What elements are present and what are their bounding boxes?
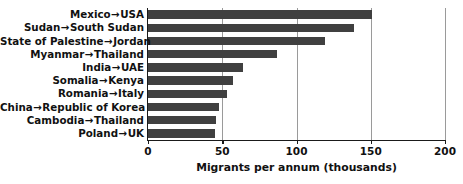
arrow-icon: → — [111, 61, 121, 73]
arrow-icon: → — [84, 114, 94, 126]
origin-label: Poland — [78, 127, 118, 139]
category-label: India→UAE — [0, 62, 144, 73]
bar-fill — [148, 76, 233, 84]
destination-label: UK — [128, 127, 144, 139]
bar-fill — [148, 50, 277, 58]
bar — [148, 10, 372, 18]
bar-fill — [148, 129, 215, 137]
arrow-icon: → — [104, 35, 114, 47]
bar — [148, 90, 227, 98]
arrow-icon: → — [118, 127, 128, 139]
x-tick-mark-150 — [371, 140, 372, 144]
gridline-150 — [371, 8, 372, 140]
destination-label: UAE — [121, 61, 144, 73]
arrow-icon: → — [84, 48, 94, 60]
bar — [148, 129, 215, 137]
category-label: Sudan→South Sudan — [0, 22, 144, 33]
destination-label: Jordan — [113, 35, 151, 47]
destination-label: Thailand — [94, 48, 144, 60]
x-tick-label-0: 0 — [144, 145, 151, 157]
category-label: Somalia→Kenya — [0, 75, 144, 86]
bar — [148, 103, 219, 111]
x-tick-mark-0 — [148, 140, 149, 144]
arrow-icon: → — [99, 74, 109, 86]
bar-fill — [148, 90, 227, 98]
bar — [148, 24, 354, 32]
category-label: State of Palestine→Jordan — [0, 36, 144, 47]
origin-label: India — [82, 61, 111, 73]
bar — [148, 37, 325, 45]
arrow-icon: → — [60, 21, 70, 33]
x-tick-mark-200 — [445, 140, 446, 144]
bar-fill — [148, 24, 354, 32]
destination-label: Thailand — [94, 114, 144, 126]
origin-label: Sudan — [24, 21, 60, 33]
category-label: Mexico→USA — [0, 9, 144, 20]
gridline-200 — [445, 8, 446, 140]
bar — [148, 50, 277, 58]
bar-fill — [148, 63, 243, 71]
origin-label: Romania — [58, 87, 109, 99]
x-tick-label-150: 150 — [360, 145, 382, 157]
x-tick-label-100: 100 — [286, 145, 308, 157]
arrow-icon: → — [108, 87, 118, 99]
category-label: China→Republic of Korea — [0, 102, 144, 113]
bar-fill — [148, 10, 372, 18]
x-tick-label-50: 50 — [215, 145, 230, 157]
category-label: Myanmar→Thailand — [0, 49, 144, 60]
destination-label: Republic of Korea — [42, 101, 145, 113]
bar-fill — [148, 103, 219, 111]
category-label: Poland→UK — [0, 128, 144, 139]
destination-label: USA — [120, 8, 144, 20]
origin-label: Myanmar — [30, 48, 84, 60]
x-tick-mark-50 — [222, 140, 223, 144]
bar-fill — [148, 37, 325, 45]
category-label: Cambodia→Thailand — [0, 115, 144, 126]
origin-label: Somalia — [52, 74, 98, 86]
migration-bar-chart: 050100150200 Mexico→USASudan→South Sudan… — [0, 0, 463, 184]
bar — [148, 76, 233, 84]
category-label: Romania→Italy — [0, 88, 144, 99]
arrow-icon: → — [33, 101, 43, 113]
origin-label: Cambodia — [27, 114, 85, 126]
x-axis-title: Migrants per annum (thousands) — [148, 161, 445, 174]
origin-label: State of Palestine — [0, 35, 104, 47]
x-tick-mark-100 — [297, 140, 298, 144]
bar — [148, 63, 243, 71]
origin-label: China — [0, 101, 33, 113]
x-tick-label-200: 200 — [434, 145, 456, 157]
arrow-icon: → — [111, 8, 121, 20]
bar — [148, 116, 216, 124]
bar-fill — [148, 116, 216, 124]
origin-label: Mexico — [70, 8, 111, 20]
destination-label: Kenya — [108, 74, 144, 86]
destination-label: South Sudan — [70, 21, 144, 33]
destination-label: Italy — [118, 87, 144, 99]
